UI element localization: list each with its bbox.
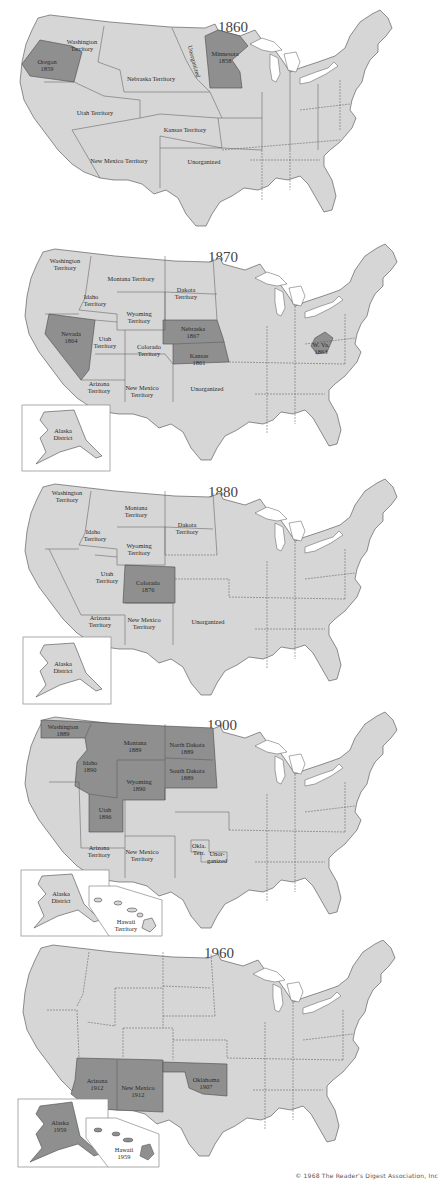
label-nebraska: Nebraska (181, 325, 205, 332)
label-montana: Montana (125, 504, 148, 511)
label-south-dakota-year: 1889 (181, 774, 194, 781)
label-alaska-2: District (51, 897, 70, 904)
label-arizona-2: Territory (88, 387, 111, 394)
label-new-mexico-2: Territory (133, 623, 156, 630)
label-hawaii: Hawaii (115, 1146, 134, 1153)
label-oklahoma-territory-2: Terr. (193, 849, 205, 856)
label-wyoming: Wyoming (126, 542, 152, 549)
label-north-dakota: North Dakota (170, 741, 205, 748)
label-north-dakota-year: 1889 (181, 748, 194, 755)
label-oklahoma: Oklahoma (193, 1076, 220, 1083)
label-hawaii-2: Territory (115, 925, 138, 932)
label-alaska: Alaska (54, 427, 72, 434)
label-new-mexico-year: 1912 (132, 1091, 145, 1098)
label-oregon-year: 1859 (41, 65, 54, 72)
label-idaho: Idaho (84, 293, 99, 300)
label-colorado-year: 1876 (142, 586, 155, 593)
label-arizona-year: 1912 (91, 1084, 104, 1091)
label-alaska: Alaska (54, 660, 72, 667)
label-utah: Utah (101, 570, 114, 577)
label-dakota-2: Territory (175, 293, 198, 300)
label-new-mexico-2: Territory (131, 855, 154, 862)
label-washington: Washington (48, 723, 79, 730)
label-west-virginia-year: 1863 (315, 348, 328, 355)
label-wyoming-year: 1890 (133, 785, 146, 792)
label-utah-year: 1896 (99, 813, 112, 820)
label-minnesota: Minnesota (212, 50, 239, 57)
map-panel-1900: 1900 Washington 1889 Montana 1889 North … (0, 710, 440, 940)
label-alaska: Alaska (52, 890, 70, 897)
label-oregon: Oregon (37, 58, 57, 65)
label-west-virginia: W. Va. (313, 341, 330, 348)
label-oklahoma-year: 1907 (200, 1083, 214, 1090)
label-nevada-year: 1864 (65, 337, 79, 344)
label-unorganized: Unorganized (192, 618, 226, 625)
label-idaho-2: Territory (84, 535, 107, 542)
map-panel-1860: 1860 Washington Territory Oregon 1859 Ne… (0, 0, 440, 240)
label-oklahoma-territory: Okla. (192, 842, 206, 849)
label-new-mexico: New Mexico (125, 384, 158, 391)
label-unorganized: Unorganized (191, 385, 225, 392)
label-nebraska-year: 1867 (187, 332, 201, 339)
label-arizona: Arizona (89, 844, 110, 851)
label-new-mexico: New Mexico (121, 1084, 154, 1091)
label-hawaii: Hawaii (117, 918, 136, 925)
label-washington-year: 1889 (57, 730, 70, 737)
label-new-mexico: New Mexico (127, 616, 160, 623)
label-alaska-2: District (53, 434, 72, 441)
label-alaska: Alaska (51, 1119, 69, 1126)
label-wyoming: Wyoming (126, 310, 152, 317)
label-kansas: Kansas Territory (164, 126, 207, 133)
map-panel-1880: 1880 Washington Territory Montana Territ… (0, 475, 440, 710)
label-arizona: Arizona (89, 380, 110, 387)
label-unorganized: Unor- (209, 850, 224, 857)
label-wyoming-2: Territory (128, 317, 151, 324)
label-utah-2: Territory (94, 342, 117, 349)
label-kansas: Kansas (190, 352, 209, 359)
map-panel-1960: 1960 Arizona 1912 New Mexico 1912 Oklaho… (0, 940, 440, 1170)
label-kansas-year: 1861 (193, 359, 206, 366)
label-washington: Washington (67, 38, 98, 45)
label-nebraska: Nebraska Territory (127, 75, 176, 82)
label-dakota-2: Territory (176, 528, 199, 535)
label-new-mexico: New Mexico Territory (90, 157, 148, 164)
label-colorado-2: Territory (138, 350, 161, 357)
label-idaho: Idaho (83, 759, 98, 766)
label-washington-2: Territory (56, 496, 79, 503)
copyright-notice: © 1968 The Reader's Digest Association, … (295, 1172, 438, 1179)
label-new-mexico: New Mexico (125, 848, 158, 855)
alaska-inset: Alaska District (22, 405, 110, 471)
map-panel-1870: 1870 Washington Territory Montana Territ… (0, 240, 440, 475)
label-nevada: Nevada (61, 330, 81, 337)
label-arizona-2: Territory (89, 621, 112, 628)
label-washington: Washington (50, 257, 81, 264)
label-washington: Washington (52, 489, 83, 496)
label-alaska-year: 1959 (54, 1126, 67, 1133)
label-washington-2: Territory (54, 264, 77, 271)
label-arizona-2: Territory (88, 851, 111, 858)
label-hawaii-year: 1959 (118, 1153, 131, 1160)
label-dakota: Dakota (177, 286, 196, 293)
label-colorado: Colorado (136, 579, 160, 586)
label-washington-2: Territory (71, 45, 94, 52)
label-idaho: Idaho (86, 528, 101, 535)
label-unorganized: Unorganized (188, 158, 222, 165)
label-montana-2: Territory (125, 511, 148, 518)
label-montana: Montana (124, 739, 147, 746)
alaska-inset: Alaska District (23, 637, 111, 704)
label-colorado: Colorado (137, 343, 161, 350)
label-south-dakota: South Dakota (170, 767, 205, 774)
label-new-mexico-2: Territory (131, 391, 154, 398)
label-utah: Utah (99, 335, 112, 342)
label-wyoming: Wyoming (126, 778, 152, 785)
label-utah: Utah Territory (77, 109, 114, 116)
label-dakota: Dakota (178, 521, 197, 528)
label-arizona: Arizona (87, 1077, 108, 1084)
label-arizona: Arizona (90, 614, 111, 621)
label-utah-2: Territory (96, 577, 119, 584)
label-montana: Montana Territory (108, 275, 156, 282)
label-montana-year: 1889 (129, 746, 142, 753)
label-minnesota-year: 1858 (219, 57, 232, 64)
label-idaho-2: Territory (84, 300, 107, 307)
label-idaho-year: 1890 (84, 766, 97, 773)
